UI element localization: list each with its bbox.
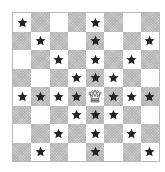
board-square-r2c6 — [123, 50, 141, 69]
board-square-r3c3 — [68, 69, 86, 88]
board-square-r5c1 — [31, 106, 49, 125]
board-square-r7c0 — [13, 143, 31, 162]
board-square-r5c7 — [141, 106, 159, 125]
board-square-r1c0 — [13, 32, 31, 51]
board-square-r3c1 — [31, 69, 49, 88]
board-square-r1c7 — [141, 32, 159, 51]
star-icon — [108, 109, 119, 120]
star-icon — [71, 109, 82, 120]
board-square-r0c7 — [141, 13, 159, 32]
star-icon — [126, 91, 137, 102]
board-square-r7c6 — [123, 143, 141, 162]
chessboard — [12, 12, 160, 162]
board-square-r2c4 — [86, 50, 104, 69]
board-square-r3c2 — [50, 69, 68, 88]
star-icon — [35, 91, 46, 102]
board-square-r3c4 — [86, 69, 104, 88]
board-square-r6c3 — [68, 124, 86, 143]
star-icon — [144, 91, 155, 102]
board-square-r3c5 — [104, 69, 122, 88]
board-square-r3c0 — [13, 69, 31, 88]
board-square-r4c2 — [50, 87, 68, 106]
board-square-r6c2 — [50, 124, 68, 143]
star-icon — [90, 54, 101, 65]
board-square-r5c6 — [123, 106, 141, 125]
board-square-r1c5 — [104, 32, 122, 51]
star-icon — [17, 91, 28, 102]
board-square-r5c2 — [50, 106, 68, 125]
star-icon — [53, 91, 64, 102]
board-square-r1c6 — [123, 32, 141, 51]
star-icon — [144, 35, 155, 46]
star-icon — [35, 35, 46, 46]
star-icon — [35, 146, 46, 157]
board-square-r0c3 — [68, 13, 86, 32]
board-square-r7c3 — [68, 143, 86, 162]
star-icon — [90, 72, 101, 83]
board-square-r2c2 — [50, 50, 68, 69]
board-square-r2c1 — [31, 50, 49, 69]
board-square-r7c7 — [141, 143, 159, 162]
star-icon — [108, 72, 119, 83]
star-icon — [53, 128, 64, 139]
board-square-r3c7 — [141, 69, 159, 88]
board-square-r0c0 — [13, 13, 31, 32]
star-icon — [90, 17, 101, 28]
board-square-r6c6 — [123, 124, 141, 143]
board-square-r7c4 — [86, 143, 104, 162]
star-icon — [90, 35, 101, 46]
board-square-r5c0 — [13, 106, 31, 125]
board-square-r6c7 — [141, 124, 159, 143]
board-square-r6c0 — [13, 124, 31, 143]
board-square-r2c7 — [141, 50, 159, 69]
star-icon — [126, 54, 137, 65]
star-icon — [90, 146, 101, 157]
board-square-r0c4 — [86, 13, 104, 32]
board-square-r4c5 — [104, 87, 122, 106]
board-square-r0c1 — [31, 13, 49, 32]
board-square-r0c5 — [104, 13, 122, 32]
board-square-r5c3 — [68, 106, 86, 125]
board-square-r1c4 — [86, 32, 104, 51]
star-icon — [71, 91, 82, 102]
board-square-r4c7 — [141, 87, 159, 106]
board-square-r2c0 — [13, 50, 31, 69]
board-square-r4c4 — [86, 87, 104, 106]
star-icon — [71, 72, 82, 83]
board-square-r6c5 — [104, 124, 122, 143]
board-square-r4c0 — [13, 87, 31, 106]
board-square-r4c6 — [123, 87, 141, 106]
star-icon — [17, 17, 28, 28]
queen-icon — [88, 89, 102, 103]
board-square-r6c1 — [31, 124, 49, 143]
board-square-r4c3 — [68, 87, 86, 106]
board-square-r4c1 — [31, 87, 49, 106]
board-square-r2c3 — [68, 50, 86, 69]
board-square-r1c2 — [50, 32, 68, 51]
board-square-r6c4 — [86, 124, 104, 143]
star-icon — [144, 146, 155, 157]
star-icon — [53, 54, 64, 65]
board-square-r0c2 — [50, 13, 68, 32]
board-square-r5c4 — [86, 106, 104, 125]
board-square-r7c2 — [50, 143, 68, 162]
star-icon — [90, 109, 101, 120]
star-icon — [90, 128, 101, 139]
board-square-r1c3 — [68, 32, 86, 51]
board-square-r2c5 — [104, 50, 122, 69]
star-icon — [108, 91, 119, 102]
board-square-r7c5 — [104, 143, 122, 162]
board-square-r1c1 — [31, 32, 49, 51]
board-square-r3c6 — [123, 69, 141, 88]
board-square-r5c5 — [104, 106, 122, 125]
board-square-r7c1 — [31, 143, 49, 162]
board-square-r0c6 — [123, 13, 141, 32]
star-icon — [126, 128, 137, 139]
